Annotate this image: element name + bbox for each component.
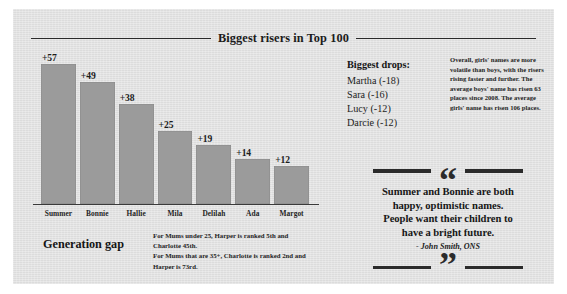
quote-rule-right xyxy=(465,266,523,269)
quote-rule-left xyxy=(373,266,431,269)
bar-rect[interactable] xyxy=(158,131,193,204)
bar-chart: +57 +49 +38 +25 +19 +14 xyxy=(29,49,319,221)
x-tick-label: Ada xyxy=(235,209,270,218)
quote-rule-right xyxy=(465,169,523,172)
generation-gap-line: For Mums that are 35+, Charlotte is rank… xyxy=(153,251,333,261)
quote-line: People want their children to xyxy=(343,212,553,226)
bar-value-label: +14 xyxy=(235,147,251,158)
x-tick-label: Hallie xyxy=(119,209,154,218)
bar-rect[interactable] xyxy=(235,159,270,204)
page-title: Biggest risers in Top 100 xyxy=(218,31,349,46)
x-tick-label: Summer xyxy=(41,209,76,218)
drop-list-item: Sara (-16) xyxy=(347,88,443,102)
x-tick-label: Delilah xyxy=(196,209,231,218)
drop-list-item: Darcie (-12) xyxy=(347,116,443,130)
quote-rule-left xyxy=(373,169,431,172)
x-axis-tick-labels: Summer Bonnie Hallie Mila Delilah Ada Ma… xyxy=(39,206,311,221)
drop-list-item: Martha (-18) xyxy=(347,74,443,88)
x-tick-label: Bonnie xyxy=(80,209,115,218)
bar-value-label: +25 xyxy=(158,119,174,130)
bar-rect[interactable] xyxy=(196,145,231,204)
bar-column[interactable]: +49 xyxy=(80,49,115,204)
bar-column[interactable]: +57 xyxy=(41,49,76,204)
x-tick-label: Mila xyxy=(158,209,193,218)
generation-gap-line: Charlotte 45th. xyxy=(153,241,333,251)
bar-rect[interactable] xyxy=(274,166,309,204)
x-tick-label: Margot xyxy=(274,209,309,218)
generation-gap-heading: Generation gap xyxy=(43,237,124,252)
bar-column[interactable]: +12 xyxy=(274,49,309,204)
bar-value-label: +38 xyxy=(119,92,135,103)
bar-value-label: +49 xyxy=(80,70,96,81)
quote-ornament-bottom: ” xyxy=(343,257,553,277)
pull-quote-block: “ Summer and Bonnie are both happy, opti… xyxy=(343,161,553,277)
generation-gap-body: For Mums under 25, Harper is ranked 5th … xyxy=(153,231,333,272)
bar-rect[interactable] xyxy=(41,64,76,204)
chart-title-row: Biggest risers in Top 100 xyxy=(31,31,536,46)
drop-list-item: Lucy (-12) xyxy=(347,102,443,116)
quote-line: happy, optimistic names. xyxy=(343,199,553,213)
bar-column[interactable]: +25 xyxy=(158,49,193,204)
title-rule-right xyxy=(356,38,536,39)
bar-value-label: +12 xyxy=(274,154,290,165)
x-axis-line xyxy=(33,204,319,205)
quote-line: have a bright future. xyxy=(343,226,553,240)
bar-rect[interactable] xyxy=(119,104,154,204)
bar-column[interactable]: +38 xyxy=(119,49,154,204)
biggest-drops-heading: Biggest drops: xyxy=(347,59,443,70)
bar-rect[interactable] xyxy=(80,82,115,204)
title-rule-left xyxy=(31,38,211,39)
bar-value-label: +19 xyxy=(196,133,212,144)
bar-value-label: +57 xyxy=(41,52,57,63)
quote-ornament-top: “ xyxy=(343,161,553,181)
biggest-drops-block: Biggest drops: Martha (-18) Sara (-16) L… xyxy=(347,59,443,130)
generation-gap-line: For Mums under 25, Harper is ranked 5th … xyxy=(153,231,333,241)
bar-column[interactable]: +19 xyxy=(196,49,231,204)
bar-series: +57 +49 +38 +25 +19 +14 xyxy=(39,49,311,204)
bar-column[interactable]: +14 xyxy=(235,49,270,204)
generation-gap-line: Harper is 73rd. xyxy=(153,262,333,272)
infographic-panel: Biggest risers in Top 100 +57 +49 +38 +2… xyxy=(13,9,554,284)
overall-summary-paragraph: Overall, girls' names are more volatile … xyxy=(450,55,550,113)
